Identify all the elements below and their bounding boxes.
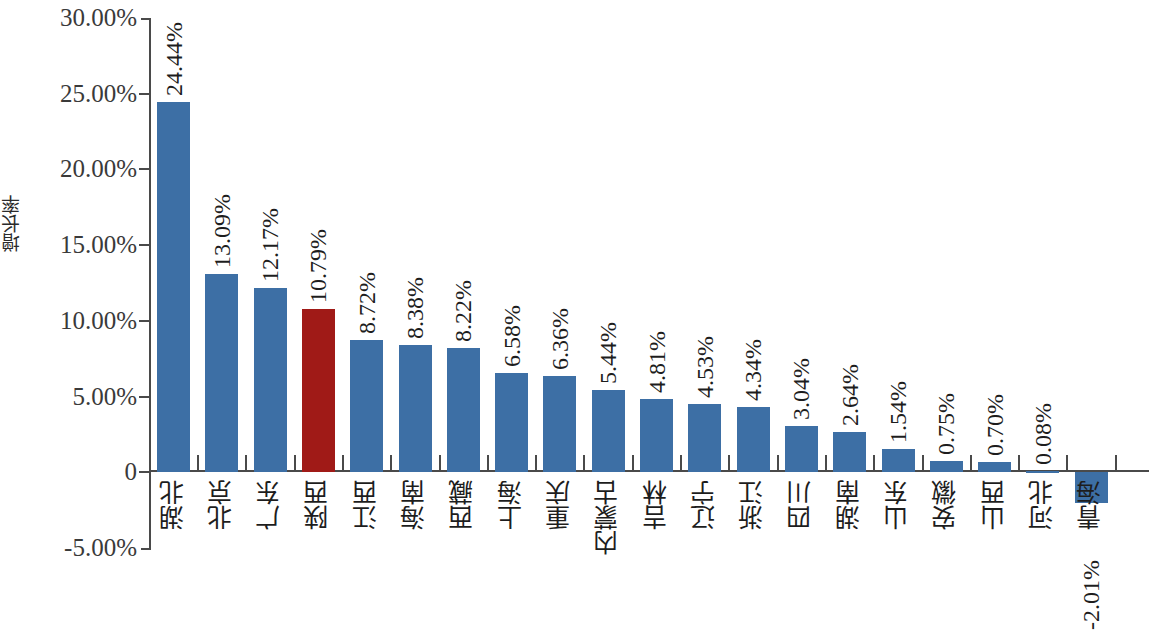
bar[interactable] [640, 399, 673, 472]
bar-value-label: 24.44% [162, 22, 186, 96]
bar[interactable] [688, 404, 721, 473]
bar-value-label: 1.54% [886, 381, 910, 443]
bar-value-label: 13.09% [210, 194, 234, 268]
bar[interactable] [785, 426, 818, 472]
bar-value-label: 8.38% [403, 277, 427, 339]
category-label: 辽宁 [692, 480, 718, 530]
category-label: 广东 [257, 480, 283, 530]
category-label: 湖北 [161, 480, 187, 530]
category-label: 吉林 [644, 480, 670, 530]
category-label: 海南 [402, 480, 428, 530]
category-label: 陕西 [305, 480, 331, 530]
bar-value-label: 3.04% [789, 358, 813, 420]
category-label: 安徽 [933, 480, 959, 530]
y-axis-tick-label: 30.00% [17, 5, 137, 30]
bar[interactable] [882, 449, 915, 472]
bar-value-label: 10.79% [306, 229, 330, 303]
bar-value-label: 0.75% [934, 393, 958, 455]
bar-value-label: 2.64% [838, 364, 862, 426]
bar[interactable] [495, 373, 528, 473]
category-label: 浙江 [740, 480, 766, 530]
y-axis-tick-label: -5.00% [17, 535, 137, 560]
category-label: 重庆 [547, 480, 573, 530]
bar[interactable] [399, 345, 432, 472]
bar[interactable] [592, 390, 625, 472]
category-label: 河北 [1030, 480, 1056, 530]
bar[interactable] [978, 462, 1011, 473]
bar[interactable] [447, 348, 480, 472]
y-axis-tick-label: 5.00% [17, 384, 137, 409]
category-label: 北京 [209, 480, 235, 530]
bar[interactable] [543, 376, 576, 472]
bar-value-label: 6.58% [500, 305, 524, 367]
plot-area [149, 18, 1155, 550]
y-axis-tick-label: 0 [17, 459, 137, 484]
bar-value-label: 0.70% [983, 394, 1007, 456]
y-axis-tick-label: 20.00% [17, 156, 137, 181]
category-label: 上海 [499, 480, 525, 530]
bar-value-label: -2.01% [1079, 560, 1103, 630]
category-label: 山西 [982, 480, 1008, 530]
y-axis-tick-label: 10.00% [17, 308, 137, 333]
bar-value-label: 0.08% [1031, 403, 1055, 465]
category-label: 内蒙古 [595, 480, 621, 555]
category-label: 四川 [788, 480, 814, 530]
y-axis-tick-labels: 30.00%25.00%20.00%15.00%10.00%5.00%0-5.0… [12, 0, 137, 623]
bar-value-label: 8.22% [451, 280, 475, 342]
category-label: 青海 [1078, 480, 1104, 530]
bar[interactable] [254, 288, 287, 472]
bar-value-label: 6.36% [548, 308, 572, 370]
category-label: 山东 [885, 480, 911, 530]
y-axis-tick-label: 15.00% [17, 232, 137, 257]
bar-value-label: 4.53% [693, 336, 717, 398]
bar-value-label: 5.44% [596, 322, 620, 384]
bar-value-label: 8.72% [355, 272, 379, 334]
bar[interactable] [930, 461, 963, 472]
bar-value-label: 4.81% [645, 331, 669, 393]
bar[interactable] [737, 407, 770, 473]
bar-value-label: 4.34% [741, 339, 765, 401]
bar[interactable] [157, 102, 190, 472]
bar[interactable] [205, 274, 238, 472]
bar[interactable] [1026, 471, 1059, 473]
bar[interactable] [833, 432, 866, 472]
category-label: 江西 [354, 480, 380, 530]
bar-value-label: 12.17% [258, 208, 282, 282]
bar[interactable] [302, 309, 335, 472]
bar[interactable] [350, 340, 383, 472]
category-label: 西藏 [450, 480, 476, 530]
y-axis-tick-label: 25.00% [17, 81, 137, 106]
category-label: 湖南 [837, 480, 863, 530]
